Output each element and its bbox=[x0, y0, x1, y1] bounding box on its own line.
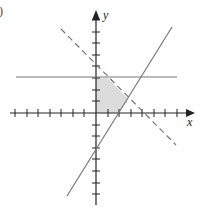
dashed-boundary-line bbox=[61, 29, 176, 145]
y-axis-label: y bbox=[102, 8, 109, 22]
diagonal-boundary-line bbox=[67, 27, 172, 196]
x-axis-label: x bbox=[186, 115, 193, 129]
part-label-fragment: ) bbox=[0, 4, 3, 18]
y-axis-arrow-icon bbox=[92, 10, 100, 20]
shaded-region bbox=[96, 78, 128, 113]
graph-canvas: y x ) bbox=[0, 0, 201, 213]
